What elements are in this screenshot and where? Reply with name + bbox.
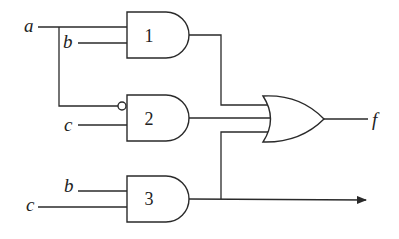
gate-3-label: 3 <box>145 189 154 209</box>
gate-1-label: 1 <box>145 26 154 46</box>
input-label-c-gate2: c <box>64 114 73 135</box>
wire-gate3-or <box>221 132 268 199</box>
logic-circuit-diagram: a b c b c 1 2 <box>0 0 399 239</box>
input-label-b-gate1: b <box>63 31 73 52</box>
wire-gate3-output-arrow <box>189 199 366 200</box>
and-gate-1: 1 <box>127 12 189 58</box>
input-label-a: a <box>24 15 34 36</box>
output-label-f: f <box>372 109 380 130</box>
input-label-b-gate3: b <box>64 175 74 196</box>
gate-2-label: 2 <box>145 109 154 129</box>
wire-gate1-or <box>189 35 268 105</box>
and-gate-2: 2 <box>118 95 189 141</box>
input-label-c-gate3: c <box>26 194 35 215</box>
inverter-bubble <box>118 102 126 110</box>
and-gate-3: 3 <box>127 176 189 222</box>
or-gate <box>263 96 324 142</box>
